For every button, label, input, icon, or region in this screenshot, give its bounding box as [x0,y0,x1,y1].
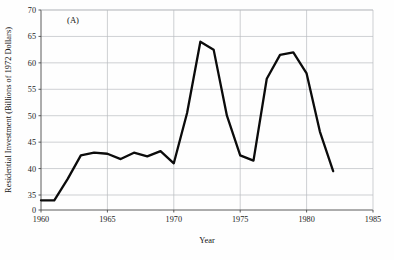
x-tick-label: 1985 [365,215,381,224]
y-gridlines [41,10,373,195]
y-tick-label: 60 [28,59,36,68]
y-axis-title: Residential Investment (Billions of 1972… [4,27,13,193]
y-tick-label: 40 [28,165,36,174]
x-axis-tick-labels: 196019651970197519801985 [33,215,381,224]
chart-container: 03540455055606570 1960196519701975198019… [0,0,394,260]
x-tick-label: 1970 [166,215,182,224]
x-tick-label: 1975 [232,215,248,224]
y-tick-label: 0 [32,206,36,215]
y-tick-label: 55 [28,85,36,94]
y-tick-label: 65 [28,32,36,41]
y-axis-tick-labels: 03540455055606570 [28,6,36,215]
y-tick-label: 45 [28,138,36,147]
line-chart: 03540455055606570 1960196519701975198019… [0,0,394,260]
x-tick-label: 1960 [33,215,49,224]
y-tick-label: 70 [28,6,36,15]
y-tick-label: 50 [28,112,36,121]
y-tick-label: 35 [28,191,36,200]
data-series-line [41,42,333,201]
panel-label: (A) [67,15,79,25]
x-axis-title: Year [199,236,215,245]
x-tick-label: 1965 [99,215,115,224]
x-gridlines [107,10,306,210]
x-tick-label: 1980 [298,215,314,224]
